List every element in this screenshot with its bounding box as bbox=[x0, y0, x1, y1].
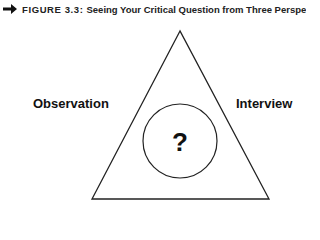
perspective-observation: Observation bbox=[33, 96, 109, 111]
question-mark: ? bbox=[172, 127, 188, 157]
perspective-interview: Interview bbox=[236, 96, 292, 111]
perspective-triangle bbox=[92, 31, 269, 199]
